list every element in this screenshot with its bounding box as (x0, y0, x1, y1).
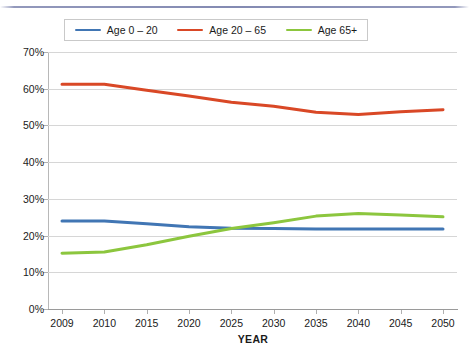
y-tick-label: 30% (10, 194, 44, 205)
x-tick-label: 2030 (262, 318, 285, 329)
x-tick-mark (231, 310, 232, 314)
x-tick-mark (401, 310, 402, 314)
y-tick-label: 20% (10, 231, 44, 242)
x-tick-mark (316, 310, 317, 314)
x-tick-mark (147, 310, 148, 314)
legend-label: Age 20 – 65 (209, 25, 266, 36)
chart-legend: Age 0 – 20Age 20 – 65Age 65+ (64, 19, 368, 41)
series-layer (48, 52, 457, 309)
y-tick-label: 10% (10, 267, 44, 278)
series-line (62, 84, 443, 114)
legend-item[interactable]: Age 65+ (284, 25, 359, 36)
x-tick-label: 2010 (93, 318, 116, 329)
y-axis: 0%10%20%30%40%50%60%70% (0, 52, 44, 310)
x-tick-mark (443, 310, 444, 314)
x-tick-label: 2015 (135, 318, 158, 329)
y-tick-label: 50% (10, 120, 44, 131)
y-tick-label: 70% (10, 47, 44, 58)
x-tick-mark (189, 310, 190, 314)
y-tick-label: 0% (10, 304, 44, 315)
legend-label: Age 65+ (318, 25, 357, 36)
title-divider-rule (0, 6, 469, 8)
legend-item[interactable]: Age 0 – 20 (73, 25, 160, 36)
x-tick-label: 2009 (50, 318, 73, 329)
x-tick-mark (62, 310, 63, 314)
legend-swatch-icon (75, 29, 101, 32)
x-tick-label: 2045 (389, 318, 412, 329)
legend-swatch-icon (177, 29, 203, 32)
y-tick-label: 60% (10, 84, 44, 95)
legend-swatch-icon (286, 29, 312, 32)
x-tick-label: 2025 (220, 318, 243, 329)
line-chart: Age 0 – 20Age 20 – 65Age 65+ 0%10%20%30%… (0, 0, 469, 358)
y-tick-label: 40% (10, 157, 44, 168)
x-tick-label: 2020 (177, 318, 200, 329)
legend-item[interactable]: Age 20 – 65 (175, 25, 268, 36)
x-tick-mark (104, 310, 105, 314)
series-line (62, 214, 443, 254)
x-tick-label: 2040 (347, 318, 370, 329)
x-axis-title: YEAR (48, 333, 458, 345)
legend-label: Age 0 – 20 (107, 25, 158, 36)
x-tick-mark (358, 310, 359, 314)
x-axis: 2009201020152020202520302035204020452050 (48, 310, 458, 334)
x-tick-mark (274, 310, 275, 314)
x-tick-label: 2050 (431, 318, 454, 329)
x-tick-label: 2035 (304, 318, 327, 329)
